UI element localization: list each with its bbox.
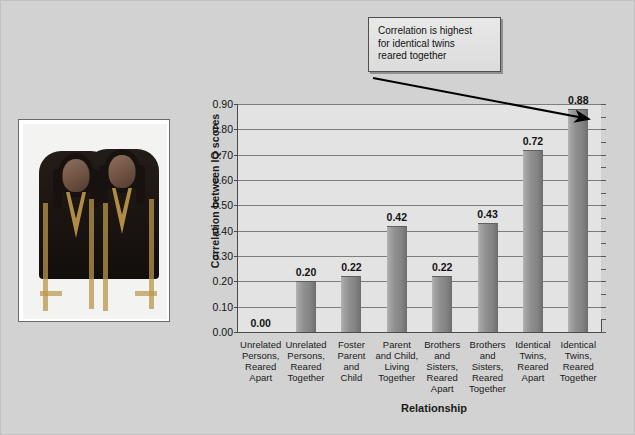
callout-line-1: Correlation is highest (378, 25, 492, 38)
right-axis-tick-mark (601, 142, 606, 143)
bar[interactable] (296, 281, 316, 332)
x-axis-category-label: IdenticalTwins,RearedApart (508, 339, 558, 383)
right-axis-tick-mark (601, 167, 606, 168)
bar[interactable] (568, 109, 588, 332)
x-axis-category-label-line: Sisters, (417, 361, 467, 372)
right-axis-tick-mark (601, 319, 606, 320)
x-axis-title: Relationship (237, 402, 631, 414)
y-axis-tick-label: 0.30 (213, 250, 233, 262)
right-axis-tick-mark (601, 180, 606, 181)
twin-hair-strand-left-a (53, 169, 62, 209)
bar-value-label: 0.43 (477, 208, 497, 220)
y-axis-tick-label: 0.60 (213, 174, 233, 186)
bar-value-label: 0.42 (387, 211, 407, 223)
x-axis-category-label-line: Brothers (463, 339, 513, 350)
y-axis-tick-label: 0.90 (213, 98, 233, 110)
bar-group[interactable]: 0.88IdenticalTwins,RearedTogether (556, 104, 601, 332)
x-axis-category-label-line: Reared (281, 361, 331, 372)
x-axis-category-label: Parentand Child,LivingTogether (372, 339, 422, 383)
x-axis-category-label-line: Parent (372, 339, 422, 350)
bar[interactable] (478, 223, 498, 332)
twin-head-left (63, 159, 90, 192)
identical-twins-photograph (23, 124, 167, 319)
right-axis-tick-mark (601, 307, 606, 308)
x-axis-category-label-line: and (463, 350, 513, 361)
x-axis-category-label-line: Child (326, 372, 376, 383)
right-axis-tick-mark (601, 129, 606, 130)
callout-line-2: for identical twins (378, 38, 492, 51)
bar[interactable] (432, 276, 452, 332)
right-axis-tick-mark (601, 332, 606, 333)
x-axis-category-label-line: Unrelated (236, 339, 286, 350)
x-axis-category-label-line: Together (553, 372, 603, 383)
bar-group[interactable]: 0.00UnrelatedPersons,RearedApart (238, 104, 283, 332)
right-axis-tick-mark (601, 205, 606, 206)
right-axis-tick-mark (601, 281, 606, 282)
y-axis-tick-mark (234, 332, 238, 333)
x-axis-category-label-line: Sisters, (463, 361, 513, 372)
x-axis-category-label: BrothersandSisters,RearedApart (417, 339, 467, 394)
bar-value-label: 0.22 (341, 261, 361, 273)
x-axis-category-label: BrothersandSisters,RearedTogether (463, 339, 513, 394)
right-axis-tick-mark (601, 231, 606, 232)
y-axis-tick-label: 0.40 (213, 225, 233, 237)
x-axis-category-label: IdenticalTwins,RearedTogether (553, 339, 603, 383)
right-axis-tick-mark (601, 269, 606, 270)
right-axis-tick-mark (601, 243, 606, 244)
callout-line-3: reared together (378, 50, 492, 63)
bar-group[interactable]: 0.43BrothersandSisters,RearedTogether (465, 104, 510, 332)
x-axis-category-label-line: and Child, (372, 350, 422, 361)
bar[interactable] (387, 226, 407, 332)
x-axis-category-label-line: Parent (326, 350, 376, 361)
twin-hair-strand-right-b (136, 165, 145, 205)
x-axis-category-label-line: Foster (326, 339, 376, 350)
bar-value-label: 0.00 (250, 317, 270, 329)
twin-cuff-right (135, 291, 157, 296)
right-axis-line (601, 320, 602, 332)
bar-group[interactable]: 0.22FosterParentandChild (329, 104, 374, 332)
x-axis-category-label-line: Reared (236, 361, 286, 372)
twin-trim-right-a (89, 199, 94, 309)
bar[interactable] (523, 150, 543, 332)
x-axis-category-label-line: Reared (463, 372, 513, 383)
twin-cuff-left (40, 291, 62, 296)
x-axis-category-label-line: Unrelated (281, 339, 331, 350)
bar[interactable] (341, 276, 361, 332)
bar-value-label: 0.22 (432, 261, 452, 273)
x-axis-category-label-line: Together (281, 372, 331, 383)
x-axis-category-label-line: Twins, (553, 350, 603, 361)
y-axis-tick-label: 0.80 (213, 123, 233, 135)
x-axis-category-label-line: Twins, (508, 350, 558, 361)
bar-group[interactable]: 0.20UnrelatedPersons,RearedTogether (283, 104, 328, 332)
x-axis-category-label-line: Persons, (281, 350, 331, 361)
bar-value-label: 0.72 (523, 135, 543, 147)
x-axis-category-label-line: Brothers (417, 339, 467, 350)
x-axis-category-label-line: Identical (553, 339, 603, 350)
plot-area: 0.900.800.700.600.500.400.300.200.100.00… (237, 104, 601, 333)
x-axis-category-label-line: Living (372, 361, 422, 372)
x-axis-category-label-line: Reared (553, 361, 603, 372)
right-axis-tick-mark (601, 256, 606, 257)
x-axis-category-label-line: Apart (417, 383, 467, 394)
x-axis-category-label-line: Identical (508, 339, 558, 350)
x-axis-category-label-line: and (417, 350, 467, 361)
x-axis-category-label-line: Reared (508, 361, 558, 372)
x-axis-category-label-line: Apart (236, 372, 286, 383)
x-axis-category-label-line: Together (372, 372, 422, 383)
x-axis-category-label-line: and (326, 361, 376, 372)
bar-group[interactable]: 0.42Parentand Child,LivingTogether (374, 104, 419, 332)
bar-group[interactable]: 0.72IdenticalTwins,RearedApart (510, 104, 555, 332)
bar-value-label: 0.88 (568, 94, 588, 106)
y-axis-tick-label: 0.10 (213, 301, 233, 313)
twin-hair-strand-right-a (99, 165, 108, 205)
x-axis-category-label-line: Together (463, 383, 513, 394)
right-axis-tick-mark (601, 294, 606, 295)
x-axis-category-label-line: Reared (417, 372, 467, 383)
x-axis-category-label: UnrelatedPersons,RearedTogether (281, 339, 331, 383)
right-axis-tick-mark (601, 104, 606, 105)
identical-twins-photo-panel (18, 119, 170, 322)
right-axis-tick-mark (601, 218, 606, 219)
bar-group[interactable]: 0.22BrothersandSisters,RearedApart (420, 104, 465, 332)
x-axis-category-label: UnrelatedPersons,RearedApart (236, 339, 286, 383)
twin-head-right (109, 155, 136, 188)
